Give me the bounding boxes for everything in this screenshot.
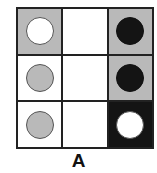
gray-circle-icon [26,111,54,139]
grid-cell-r1-c0 [18,56,61,101]
grid-cell-r2-c2 [109,102,152,147]
grid-cell-r2-c0 [18,102,61,147]
grid-cell-r1-c2 [109,56,152,101]
grid-cell-r0-c2 [109,9,152,54]
grid-cell-r0-c1 [63,9,106,54]
gray-circle-icon [26,64,54,92]
grid-3x3 [16,7,154,149]
grid-cell-r0-c0 [18,9,61,54]
black-circle-icon [116,64,144,92]
grid-cell-r2-c1 [63,102,106,147]
white-circle-icon [116,111,144,139]
black-circle-icon [116,17,144,45]
grid-cell-r1-c1 [63,56,106,101]
diagram-label: A [0,150,157,172]
white-circle-icon [26,17,54,45]
